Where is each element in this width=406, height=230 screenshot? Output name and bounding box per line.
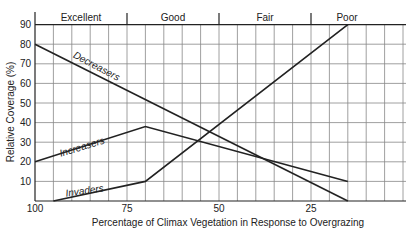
y-axis-title: Relative Coverage (%) [5, 62, 16, 163]
x-tick-label: 100 [27, 203, 44, 214]
band-label-good: Good [161, 12, 185, 23]
axes-frame [35, 12, 406, 201]
range-condition-chart: ExcellentGoodFairPoor 102030405060708090… [0, 0, 406, 230]
grid-lines [35, 25, 406, 201]
band-label-poor: Poor [336, 12, 358, 23]
y-axis-ticks: 102030405060708090 [20, 19, 32, 187]
series-label-invaders: Invaders [65, 182, 105, 198]
y-tick-label: 30 [20, 137, 32, 148]
y-tick-label: 10 [20, 176, 32, 187]
data-series: DecreasersIncreasersInvaders [35, 25, 348, 201]
x-axis-ticks: 100755025 [27, 203, 317, 214]
series-line-increasers [35, 127, 348, 182]
x-tick-label: 25 [305, 203, 317, 214]
series-label-increasers: Increasers [58, 135, 106, 159]
y-tick-label: 80 [20, 39, 32, 50]
y-tick-label: 60 [20, 78, 32, 89]
y-tick-label: 50 [20, 98, 32, 109]
y-tick-label: 20 [20, 156, 32, 167]
y-tick-label: 40 [20, 117, 32, 128]
x-axis-title: Percentage of Climax Vegetation in Respo… [92, 217, 364, 228]
y-tick-label: 90 [20, 19, 32, 30]
condition-bands: ExcellentGoodFairPoor [61, 12, 359, 25]
band-label-fair: Fair [256, 12, 274, 23]
x-tick-label: 50 [213, 203, 225, 214]
x-tick-label: 75 [121, 203, 133, 214]
band-label-excellent: Excellent [61, 12, 102, 23]
y-tick-label: 70 [20, 58, 32, 69]
